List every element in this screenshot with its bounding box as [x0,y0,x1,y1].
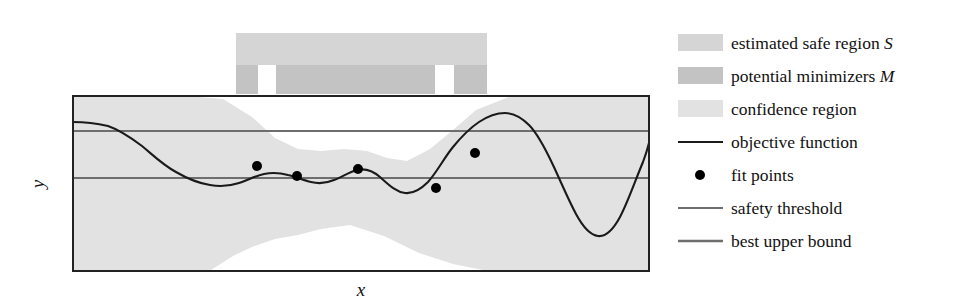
fit-point [292,171,302,181]
potential-minimizers-block [236,65,258,94]
legend-item-fit-points: fit points [695,165,794,185]
safe-optimization-figure: y x estimated safe region S potential mi… [0,0,955,306]
legend-label-text: objective function [731,132,858,152]
estimated-safe-region-bar [236,33,487,65]
fit-point [470,148,480,158]
dot-fit-points-icon [695,170,705,180]
legend-label-text: fit points [731,165,794,185]
legend-item-best-upper-bound: best upper bound [678,231,852,251]
potential-minimizers-block [276,65,435,94]
legend-item-safety-threshold: safety threshold [678,198,843,218]
swatch-potential-minimizers-icon [678,67,723,84]
swatch-safe-region-icon [678,34,723,51]
legend-label-text: estimated safe region [731,33,880,53]
plot-area [73,96,649,271]
legend-item-objective-function: objective function [678,132,858,152]
legend-label-text: confidence region [731,99,857,119]
svg-text:potential minimizers M: potential minimizers M [731,66,896,86]
fit-point [353,164,363,174]
region-bars-group [236,33,487,94]
legend-item-confidence-region: confidence region [678,99,857,119]
x-axis-label: x [356,279,366,300]
legend-label-text: potential minimizers [731,66,876,86]
fit-point [252,161,262,171]
svg-text:estimated safe region S: estimated safe region S [731,33,893,53]
legend-item-estimated-safe-region: estimated safe region S [678,33,893,53]
potential-minimizers-block [454,65,487,94]
y-axis-label: y [27,179,48,190]
fit-point [431,183,441,193]
swatch-confidence-region-icon [678,100,723,117]
legend-item-potential-minimizers: potential minimizers M [678,66,896,86]
legend-label-text: safety threshold [731,198,843,218]
legend: estimated safe region S potential minimi… [678,33,896,251]
legend-label-math: M [879,66,896,86]
legend-label-math: S [884,33,893,53]
legend-label-text: best upper bound [731,231,852,251]
